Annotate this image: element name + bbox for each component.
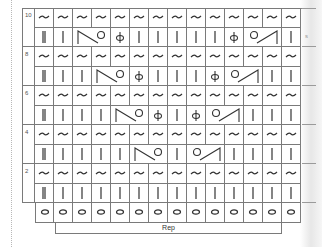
knit-bar-icon (194, 69, 198, 83)
chart-cell (282, 145, 301, 165)
tilde-icon (285, 14, 297, 20)
knit-bar-icon (175, 30, 179, 44)
chart-cell (206, 106, 244, 126)
chart-cell (187, 125, 206, 145)
chart-cell (282, 67, 301, 87)
knit-bar-icon (251, 147, 255, 161)
chart-cell (111, 164, 130, 184)
tilde-icon (209, 170, 221, 176)
knit-bar-icon (61, 108, 65, 122)
decrease-yo-left-icon (131, 146, 167, 162)
chart-cell (149, 8, 168, 28)
chart-cell (92, 106, 111, 126)
chart-cell (130, 164, 149, 184)
tilde-icon (266, 14, 278, 20)
chart-cell (111, 106, 149, 126)
chart-cell (54, 106, 73, 126)
chart-cell (225, 86, 244, 106)
knit-bar-icon (194, 186, 198, 200)
knit-bar-icon (61, 186, 65, 200)
knit-bar-icon (99, 147, 103, 161)
tilde-icon (266, 170, 278, 176)
chart-cell (244, 125, 263, 145)
tilde-icon (266, 53, 278, 59)
knit-bar-icon (61, 69, 65, 83)
chart-cell (149, 164, 168, 184)
knit-bar-icon (270, 108, 274, 122)
chart-cell (111, 184, 130, 204)
tilde-icon (133, 131, 145, 137)
chart-cell (187, 86, 206, 106)
chart-cell (282, 86, 301, 106)
chart-cell (111, 86, 130, 106)
tilde-icon (38, 14, 50, 20)
knit-bar-icon (99, 186, 103, 200)
chart-cell (282, 125, 301, 145)
tilde-icon (114, 131, 126, 137)
knit-bar-icon (289, 30, 293, 44)
tilde-icon (57, 53, 69, 59)
purl-oval-icon (115, 208, 125, 216)
knit-bar-icon (156, 69, 160, 83)
chart-cell (130, 86, 149, 106)
chart-cell (92, 67, 130, 87)
double-bar-icon (41, 30, 47, 44)
purl-oval-icon (191, 208, 201, 216)
chart-cell (168, 145, 187, 165)
chart-cell (149, 106, 168, 126)
chart-cell (54, 47, 73, 67)
chart-cell (130, 28, 149, 48)
knit-bar-icon (175, 108, 179, 122)
chart-cell (225, 145, 244, 165)
tilde-icon (114, 53, 126, 59)
knit-bar-icon (61, 30, 65, 44)
chart-cell (282, 184, 301, 204)
tilde-icon (247, 53, 259, 59)
chart-cell (111, 145, 130, 165)
chart-cell (244, 47, 263, 67)
chart-cell (225, 8, 244, 28)
chart-cell (206, 125, 225, 145)
tilde-icon (57, 14, 69, 20)
tilde-icon (76, 14, 88, 20)
chart-cell (35, 184, 54, 204)
knit-bar-icon (175, 186, 179, 200)
chart-cell (263, 184, 282, 204)
yo-decrease-right-icon (245, 29, 281, 45)
chart-cell (92, 125, 111, 145)
double-bar-icon (41, 147, 47, 161)
purl-oval-icon (267, 208, 277, 216)
knit-bar-icon (270, 147, 274, 161)
chart-cell (130, 203, 149, 223)
chart-cell (149, 86, 168, 106)
chart-cell (225, 67, 263, 87)
chart-cell (54, 125, 73, 145)
tilde-icon (171, 53, 183, 59)
row-number-label: 6 (22, 86, 35, 125)
chart-cell (111, 47, 130, 67)
chart-cell (282, 164, 301, 184)
tilde-icon (76, 170, 88, 176)
chart-cell (187, 145, 225, 165)
twisted-stitch-icon (134, 69, 144, 83)
knit-bar-icon (118, 147, 122, 161)
tilde-icon (228, 170, 240, 176)
chart-cell (282, 8, 301, 28)
tilde-icon (171, 14, 183, 20)
chart-cell (206, 8, 225, 28)
chart-cell (130, 67, 149, 87)
purl-oval-icon (77, 208, 87, 216)
purl-oval-icon (58, 208, 68, 216)
chart-cell (54, 203, 73, 223)
chart-cell (92, 164, 111, 184)
chart-cell (263, 125, 282, 145)
chart-cell (54, 145, 73, 165)
chart-cell (206, 47, 225, 67)
knit-bar-icon (251, 186, 255, 200)
tilde-icon (285, 92, 297, 98)
chart-cell (187, 184, 206, 204)
tilde-icon (95, 131, 107, 137)
decrease-yo-left-icon (74, 29, 110, 45)
tilde-icon (133, 92, 145, 98)
knit-bar-icon (175, 69, 179, 83)
